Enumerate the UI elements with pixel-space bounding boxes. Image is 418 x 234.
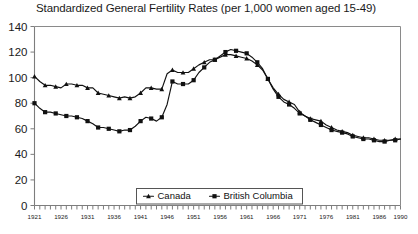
x-tick-label: 1941 — [134, 213, 148, 220]
data-point-marker-square — [351, 134, 355, 138]
data-point-marker-square — [43, 110, 47, 114]
data-point-marker-square — [255, 60, 259, 64]
data-point-marker-square — [245, 51, 249, 55]
data-point-marker-square — [212, 194, 216, 198]
y-tick-label: 60 — [15, 123, 28, 135]
data-point-marker-square — [192, 78, 196, 82]
data-point-marker-square — [170, 79, 174, 83]
x-tick-label: 1961 — [240, 213, 254, 220]
x-tick-label: 1946 — [160, 213, 174, 220]
data-point-marker-square — [64, 114, 68, 118]
y-tick-label: 0 — [21, 200, 27, 212]
x-tick-label: 1936 — [107, 213, 121, 220]
y-axis: 020406080100120140 — [8, 21, 34, 212]
data-point-marker-square — [372, 138, 376, 142]
x-tick-label: 1951 — [187, 213, 201, 220]
data-point-marker-square — [329, 128, 333, 132]
x-tick-label: 1921 — [28, 213, 42, 220]
data-point-marker-square — [234, 49, 238, 53]
data-point-marker-square — [138, 119, 142, 123]
data-point-marker-triangle — [32, 74, 37, 78]
data-point-marker-square — [382, 139, 386, 143]
data-point-marker-square — [149, 116, 153, 120]
data-point-marker-square — [266, 77, 270, 81]
data-point-marker-square — [117, 129, 121, 133]
chart-legend: CanadaBritish Columbia — [137, 189, 303, 205]
y-tick-label: 100 — [8, 72, 27, 84]
legend-label: British Columbia — [224, 190, 294, 201]
x-tick-label: 1986 — [372, 213, 386, 220]
y-tick-label: 120 — [8, 46, 27, 58]
plot-frame — [35, 27, 401, 206]
data-point-marker-triangle — [170, 68, 175, 72]
x-tick-label: 1976 — [319, 213, 333, 220]
x-axis: 1921192619311936194119461951195619611966… — [28, 206, 408, 221]
data-point-marker-square — [287, 102, 291, 106]
x-tick-label: 1956 — [213, 213, 227, 220]
y-tick-label: 80 — [15, 97, 28, 109]
x-tick-label: 1931 — [81, 213, 95, 220]
series-canada — [32, 52, 400, 142]
y-tick-label: 20 — [15, 174, 28, 186]
data-point-marker-square — [223, 50, 227, 54]
y-tick-label: 40 — [15, 148, 28, 160]
series-line — [35, 55, 401, 141]
y-tick-label: 140 — [8, 21, 27, 33]
data-point-marker-square — [128, 128, 132, 132]
data-point-marker-square — [181, 82, 185, 86]
data-point-marker-square — [308, 118, 312, 122]
data-point-marker-square — [340, 131, 344, 135]
data-point-marker-square — [54, 111, 58, 115]
data-point-marker-square — [202, 65, 206, 69]
data-point-marker-square — [107, 127, 111, 131]
x-tick-label: 1971 — [293, 213, 307, 220]
series-british-columbia — [32, 49, 400, 144]
data-point-marker-square — [213, 58, 217, 62]
data-point-marker-square — [75, 115, 79, 119]
data-point-marker-square — [276, 95, 280, 99]
x-tick-label: 1926 — [54, 213, 68, 220]
data-point-marker-square — [85, 119, 89, 123]
data-series-group — [32, 49, 400, 144]
legend-label: Canada — [158, 190, 192, 201]
data-point-marker-square — [32, 101, 36, 105]
x-tick-label: 1966 — [266, 213, 280, 220]
data-point-marker-square — [96, 125, 100, 129]
data-point-marker-square — [319, 123, 323, 127]
fertility-rates-chart: Standardized General Fertility Rates (pe… — [0, 0, 418, 234]
x-tick-label: 1990 — [394, 213, 408, 220]
data-point-marker-square — [361, 137, 365, 141]
series-line — [35, 50, 401, 142]
data-point-marker-square — [298, 111, 302, 115]
x-tick-label: 1981 — [346, 213, 360, 220]
chart-plot-area: 020406080100120140 192119261931193619411… — [0, 0, 418, 234]
data-point-marker-square — [160, 115, 164, 119]
data-point-marker-square — [393, 138, 397, 142]
